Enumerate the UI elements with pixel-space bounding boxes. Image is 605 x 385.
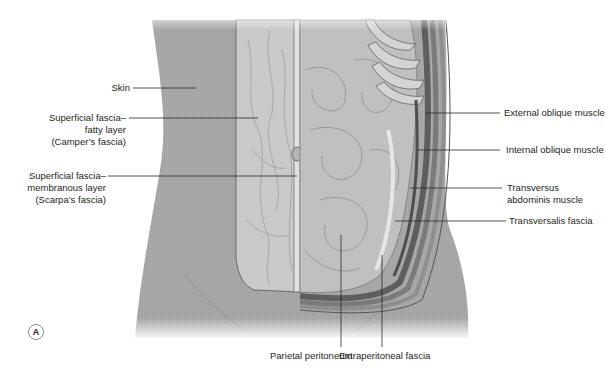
label-text: Skin: [112, 82, 130, 93]
label-text: Superficial fascia–: [20, 112, 126, 124]
label-internal-oblique: Internal oblique muscle: [506, 144, 604, 156]
label-text: fatty layer: [20, 124, 126, 136]
panel-label-badge: A: [28, 324, 44, 340]
label-text: Transversus: [507, 182, 583, 194]
label-text: (Camper’s fascia): [20, 136, 126, 148]
label-transversus-abdominis: Transversus abdominis muscle: [507, 182, 583, 206]
label-text: Extraperitoneal fascia: [339, 350, 430, 361]
label-extraperitoneal-fascia: Extraperitoneal fascia: [339, 350, 430, 362]
label-text: abdominis muscle: [507, 194, 583, 206]
label-text: (Scarpa’s fascia): [0, 194, 106, 206]
label-text: External oblique muscle: [504, 107, 605, 118]
label-text: Internal oblique muscle: [506, 144, 604, 155]
label-campers-fascia: Superficial fascia– fatty layer (Camper’…: [20, 112, 126, 148]
label-scarpas-fascia: Superficial fascia– membranous layer (Sc…: [0, 170, 106, 206]
label-text: membranous layer: [0, 182, 106, 194]
label-external-oblique: External oblique muscle: [504, 107, 605, 119]
label-skin: Skin: [80, 82, 130, 94]
label-transversalis-fascia: Transversalis fascia: [509, 215, 593, 227]
label-text: Superficial fascia–: [0, 170, 106, 182]
label-text: Transversalis fascia: [509, 215, 593, 226]
